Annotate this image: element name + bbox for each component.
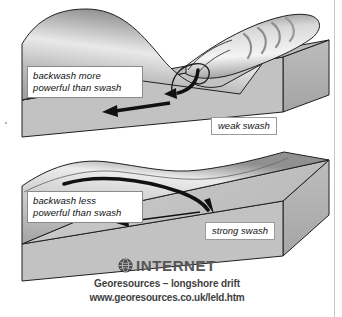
internet-heading-row: INTERNET — [0, 256, 334, 275]
footer-subtitle: Georesources – longshore drift — [0, 278, 334, 289]
diagram-page: backwash more powerful than swash weak s… — [0, 0, 342, 317]
globe-icon — [118, 258, 133, 273]
label-strong-swash: strong swash — [205, 222, 275, 240]
footer-url[interactable]: www.georesources.co.uk/leld.htm — [0, 292, 334, 303]
footer-internet-block: INTERNET Georesources – longshore drift … — [0, 256, 334, 303]
internet-heading-label: INTERNET — [136, 257, 216, 274]
label-weak-swash: weak swash — [211, 117, 277, 135]
callout-backwash-less: backwash less powerful than swash — [27, 191, 143, 223]
callout-backwash-more: backwash more powerful than swash — [27, 66, 143, 98]
